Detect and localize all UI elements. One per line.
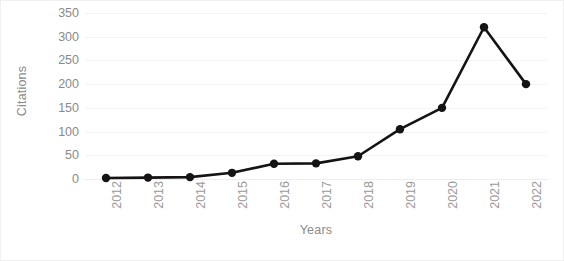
- plot-area: [85, 13, 547, 179]
- series-line: [106, 27, 526, 178]
- data-point-2017: [312, 159, 320, 167]
- series-citations: [85, 13, 547, 179]
- x-axis-title: Years: [85, 223, 547, 237]
- data-point-2021: [480, 23, 488, 31]
- data-point-2015: [228, 169, 236, 177]
- x-tick-label-2020: 2020: [447, 181, 460, 209]
- x-axis-tick-labels: 2012201320142015201620172018201920202021…: [85, 179, 547, 221]
- data-point-2018: [354, 152, 362, 160]
- y-tick-label-50: 50: [41, 149, 79, 162]
- citations-line-chart: Citations 050100150200250300350 20122013…: [0, 0, 564, 261]
- data-point-2020: [438, 104, 446, 112]
- x-tick-label-2012: 2012: [111, 181, 124, 209]
- y-tick-label-100: 100: [41, 125, 79, 138]
- data-point-2019: [396, 125, 404, 133]
- y-tick-label-0: 0: [41, 173, 79, 186]
- x-tick-label-2013: 2013: [153, 181, 166, 209]
- data-point-2022: [522, 80, 530, 88]
- y-tick-label-300: 300: [41, 30, 79, 43]
- x-tick-label-2022: 2022: [531, 181, 544, 209]
- x-tick-label-2015: 2015: [237, 181, 250, 209]
- y-axis-tick-labels: 050100150200250300350: [41, 13, 79, 179]
- x-tick-label-2017: 2017: [321, 181, 334, 209]
- y-tick-label-250: 250: [41, 54, 79, 67]
- x-tick-label-2019: 2019: [405, 181, 418, 209]
- y-tick-label-150: 150: [41, 102, 79, 115]
- x-tick-label-2014: 2014: [195, 181, 208, 209]
- y-tick-label-200: 200: [41, 78, 79, 91]
- x-tick-label-2021: 2021: [489, 181, 502, 209]
- y-axis-title-label: Citations: [15, 66, 29, 116]
- x-tick-label-2018: 2018: [363, 181, 376, 209]
- y-tick-label-350: 350: [41, 7, 79, 20]
- data-point-2016: [270, 160, 278, 168]
- x-tick-label-2016: 2016: [279, 181, 292, 209]
